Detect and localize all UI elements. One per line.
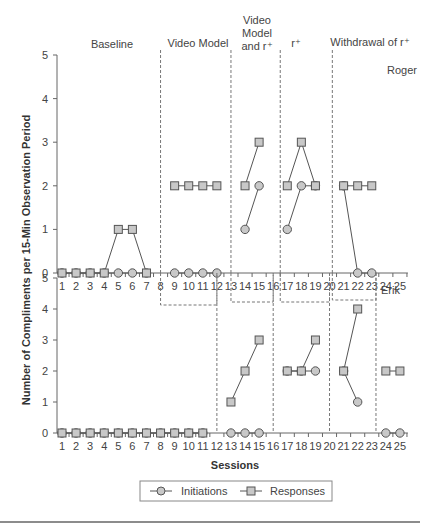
- x-tick-label: 21: [337, 280, 349, 292]
- x-tick-label: 11: [197, 440, 208, 452]
- y-tick-label: 4: [42, 303, 48, 315]
- x-tick-label: 18: [295, 440, 307, 452]
- phase-label-line: Video: [243, 14, 271, 26]
- phase-label-line: Model: [242, 27, 272, 39]
- phase-label-5: Withdrawal of r⁺: [330, 36, 409, 48]
- responses-marker: [227, 398, 235, 406]
- x-tick-label: 23: [366, 440, 378, 452]
- initiations-line: [344, 371, 358, 402]
- responses-marker: [255, 336, 263, 344]
- legend-initiations-marker: [157, 487, 165, 495]
- x-tick-label: 6: [129, 440, 135, 452]
- responses-marker: [283, 367, 291, 375]
- x-tick-label: 17: [281, 440, 293, 452]
- x-tick-label: 4: [101, 280, 107, 292]
- initiations-marker: [185, 269, 193, 277]
- responses-marker: [354, 305, 362, 313]
- participant-label: Erik: [381, 284, 400, 296]
- multiple-baseline-chart: 0123451234567891011121314151617181920212…: [0, 0, 435, 527]
- responses-marker: [86, 269, 94, 277]
- responses-marker: [213, 182, 221, 190]
- x-tick-label: 11: [197, 280, 208, 292]
- responses-marker: [255, 138, 263, 146]
- responses-marker: [199, 182, 207, 190]
- participant-label: Roger: [387, 64, 417, 76]
- responses-marker: [185, 429, 193, 437]
- x-axis-title: Sessions: [211, 459, 259, 471]
- x-tick-label: 3: [87, 280, 93, 292]
- x-tick-label: 2: [73, 280, 79, 292]
- phase-label-3: VideoModeland r⁺: [241, 14, 272, 52]
- initiations-marker: [114, 269, 122, 277]
- responses-marker: [100, 429, 108, 437]
- x-tick-label: 10: [183, 440, 195, 452]
- responses-marker: [114, 429, 122, 437]
- responses-marker: [171, 429, 179, 437]
- initiations-line: [245, 186, 259, 230]
- responses-marker: [72, 429, 80, 437]
- responses-line: [62, 229, 146, 273]
- responses-marker: [72, 269, 80, 277]
- x-tick-label: 15: [253, 280, 265, 292]
- responses-marker: [199, 429, 207, 437]
- x-tick-label: 5: [115, 440, 121, 452]
- initiations-marker: [353, 269, 361, 277]
- responses-marker: [157, 429, 165, 437]
- responses-marker: [311, 182, 319, 190]
- x-tick-label: 24: [380, 440, 392, 452]
- responses-line: [245, 142, 259, 186]
- initiations-marker: [283, 225, 291, 233]
- phase-label-4: r⁺: [291, 37, 301, 49]
- legend-initiations-label: Initiations: [181, 485, 228, 497]
- y-tick-label: 3: [42, 136, 48, 148]
- responses-marker: [241, 182, 249, 190]
- responses-marker: [241, 367, 249, 375]
- x-tick-label: 16: [267, 440, 279, 452]
- phase-label-2: Video Model: [168, 37, 229, 49]
- responses-marker: [283, 182, 291, 190]
- y-tick-label: 3: [42, 334, 48, 346]
- responses-marker: [368, 182, 376, 190]
- initiations-marker: [199, 269, 207, 277]
- x-tick-label: 1: [59, 280, 65, 292]
- y-tick-label: 5: [42, 49, 48, 61]
- initiations-marker: [396, 429, 404, 437]
- responses-line: [287, 142, 315, 186]
- responses-marker: [100, 269, 108, 277]
- x-tick-label: 20: [323, 440, 335, 452]
- x-tick-label: 14: [239, 280, 251, 292]
- x-tick-label: 22: [352, 440, 364, 452]
- x-tick-label: 2: [73, 440, 79, 452]
- x-tick-label: 13: [225, 440, 237, 452]
- responses-marker: [311, 336, 319, 344]
- initiations-line: [287, 186, 315, 230]
- initiations-marker: [255, 429, 263, 437]
- x-tick-label: 4: [101, 440, 107, 452]
- initiations-marker: [170, 269, 178, 277]
- responses-marker: [297, 367, 305, 375]
- legend-responses-marker: [247, 487, 255, 495]
- x-tick-label: 17: [281, 280, 293, 292]
- x-tick-label: 18: [295, 280, 307, 292]
- phase-label-line: r⁺: [291, 37, 301, 49]
- y-tick-label: 2: [42, 365, 48, 377]
- responses-marker: [128, 225, 136, 233]
- initiations-marker: [382, 429, 390, 437]
- x-tick-label: 9: [172, 440, 178, 452]
- responses-marker: [382, 367, 390, 375]
- phase-label-1: Baseline: [91, 38, 133, 50]
- x-tick-label: 12: [211, 440, 223, 452]
- x-tick-label: 1: [59, 440, 65, 452]
- responses-marker: [142, 269, 150, 277]
- x-tick-label: 19: [309, 440, 321, 452]
- initiations-line: [344, 186, 372, 273]
- responses-marker: [354, 182, 362, 190]
- x-tick-label: 19: [309, 280, 321, 292]
- responses-marker: [340, 182, 348, 190]
- x-tick-label: 25: [394, 440, 406, 452]
- responses-marker: [396, 367, 404, 375]
- panel-roger: 0123451234567891011121314151617181920212…: [42, 49, 417, 292]
- responses-marker: [171, 182, 179, 190]
- y-tick-label: 2: [42, 180, 48, 192]
- phase-label-line: and r⁺: [241, 40, 272, 52]
